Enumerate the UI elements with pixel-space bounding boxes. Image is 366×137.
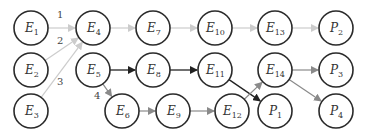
graph-diagram: 1234 E1E2E3E4E5E6E7E8E9E10E11E12E13E14P1…: [0, 0, 366, 137]
node-e4: E4: [76, 11, 110, 45]
node-e1: E1: [14, 11, 48, 45]
node-e7: E7: [136, 11, 170, 45]
graph-svg: 1234 E1E2E3E4E5E6E7E8E9E10E11E12E13E14P1…: [0, 0, 366, 137]
node-e11: E11: [198, 53, 232, 87]
node-e12: E12: [215, 94, 249, 128]
node-p1: P1: [258, 94, 292, 128]
node-e13: E13: [258, 11, 292, 45]
node-e6: E6: [105, 94, 139, 128]
edge-label: 1: [57, 9, 63, 20]
edge-e5-to-e6: [103, 84, 112, 96]
node-e14: E14: [258, 53, 292, 87]
node-p3: P3: [319, 53, 353, 87]
node-e5: E5: [76, 53, 110, 87]
node-p2: P2: [319, 11, 353, 45]
edge-label: 3: [57, 76, 63, 87]
node-e3: E3: [14, 94, 48, 128]
node-p4: P4: [319, 94, 353, 128]
node-e8: E8: [136, 53, 170, 87]
node-e10: E10: [198, 11, 232, 45]
node-e2: E2: [14, 53, 48, 87]
edge-e14-to-p4: [289, 79, 321, 100]
node-e9: E9: [156, 94, 190, 128]
edge-label: 2: [57, 35, 63, 46]
edge-label: 4: [94, 90, 100, 101]
